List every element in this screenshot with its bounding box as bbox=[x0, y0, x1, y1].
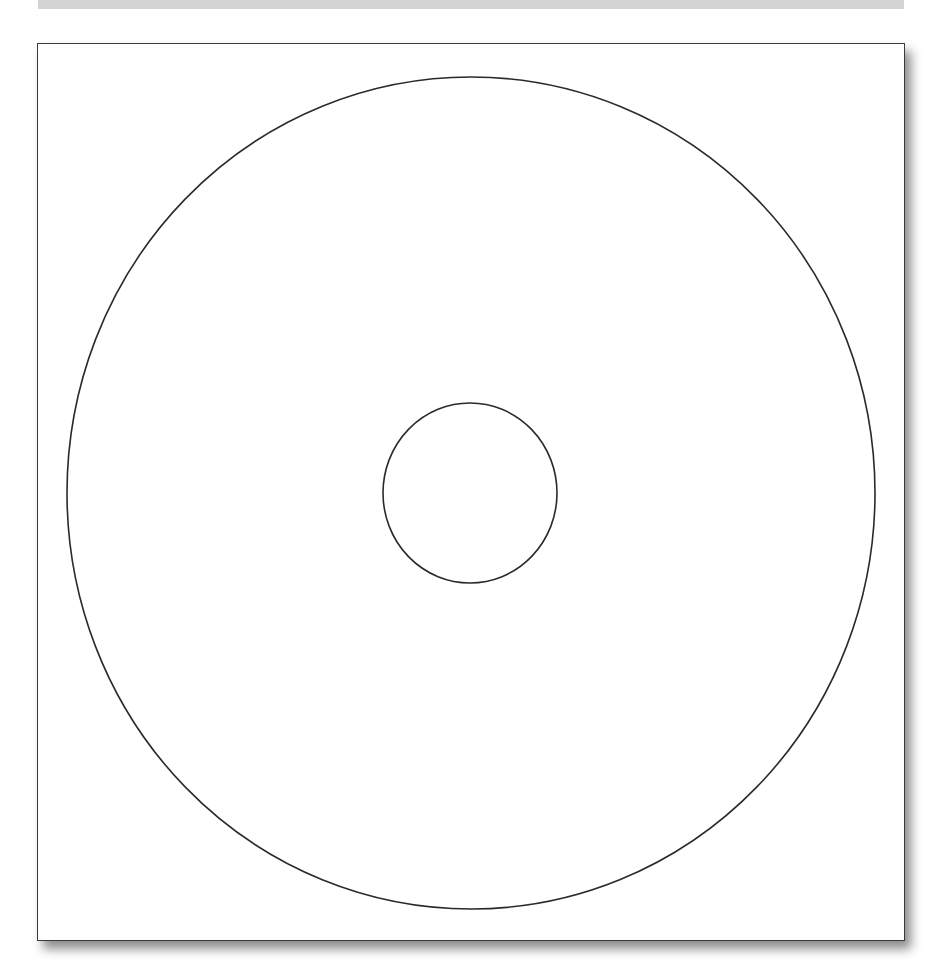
outer-disc-circle bbox=[67, 77, 875, 909]
center-hole-circle bbox=[383, 403, 557, 583]
disc-outline bbox=[0, 0, 946, 979]
